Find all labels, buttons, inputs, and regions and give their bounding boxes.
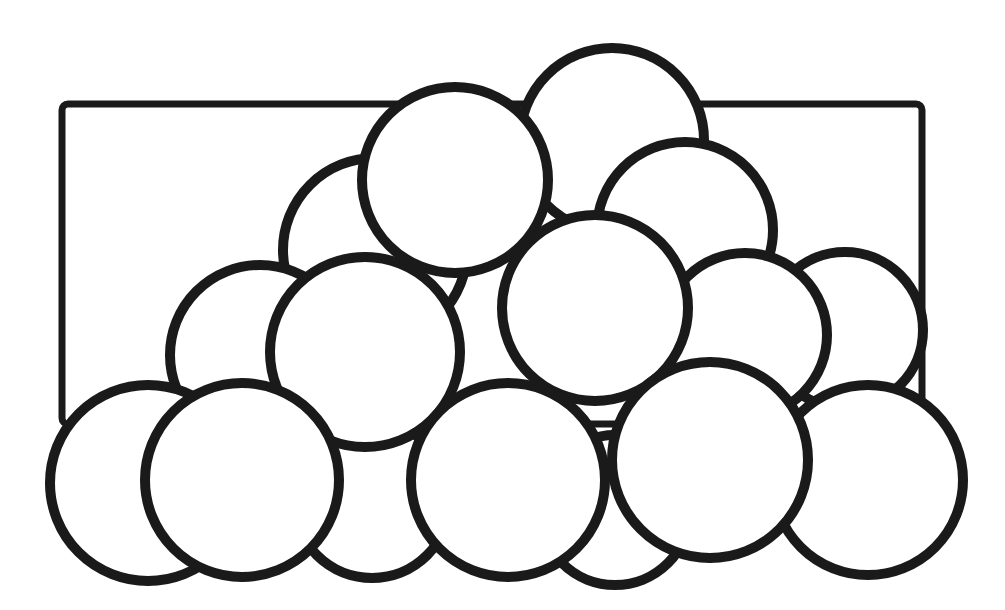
circle-stack-diagram (0, 0, 1005, 610)
circle-c-bottom-center (411, 383, 605, 577)
circle-c-bottom-left (145, 383, 339, 577)
circle-c-bottom-right (612, 362, 808, 558)
